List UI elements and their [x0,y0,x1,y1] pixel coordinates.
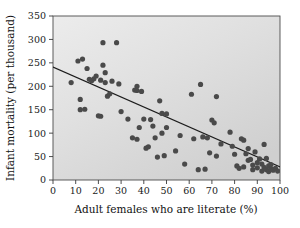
y-tick-label: 100 [28,128,46,139]
scatter-point [262,142,267,147]
x-axis-ticks [53,180,280,184]
y-axis-tick-labels: 050100150200250300350 [28,10,46,185]
scatter-point [141,116,146,121]
scatter-point [227,130,232,135]
scatter-point [125,116,130,121]
scatter-point [103,70,108,75]
y-axis-title: Infant mortality (per thousand) [4,15,16,181]
scatter-point [98,78,103,83]
scatter-point [155,154,160,159]
scatter-point [134,88,139,93]
scatter-point [214,154,219,159]
scatter-point [257,156,262,161]
scatter-point [119,109,124,114]
chart-canvas: 050100150200250300350 010203040506070809… [0,0,300,228]
scatter-point [134,137,139,142]
scatter-point [162,153,167,158]
y-tick-label: 50 [34,151,46,162]
scatter-point [232,152,237,157]
scatter-point [246,146,251,151]
scatter-point [189,92,194,97]
y-tick-label: 350 [28,10,46,21]
scatter-point [255,165,260,170]
scatter-point [218,141,223,146]
scatter-point [264,156,269,161]
scatter-point [250,167,255,172]
scatter-point [80,57,85,62]
x-tick-label: 0 [50,185,56,196]
scatter-point [241,138,246,143]
scatter-point [173,148,178,153]
scatter-point [159,111,164,116]
scatter-point [107,91,112,96]
scatter-point [196,167,201,172]
scatter-point [150,124,155,129]
y-tick-label: 0 [40,174,46,185]
scatter-point [82,107,87,112]
scatter-point [114,40,119,45]
y-tick-label: 250 [28,57,46,68]
scatter-point [207,150,212,155]
scatter-point [241,164,246,169]
y-axis-ticks [49,16,53,180]
scatter-point [146,144,151,149]
scatter-point [157,98,162,103]
scatter-point [78,97,83,102]
infant-mortality-literacy-scatter-figure: 050100150200250300350 010203040506070809… [0,0,300,228]
scatter-point [116,81,121,86]
scatter-point [84,66,89,71]
scatter-point [248,157,253,162]
scatter-point [98,114,103,119]
scatter-point [109,79,114,84]
scatter-point [250,162,255,167]
x-tick-label: 80 [229,185,241,196]
x-axis-tick-labels: 0102030405060708090100 [50,185,289,196]
scatter-point [137,125,142,130]
x-tick-label: 30 [115,185,127,196]
y-tick-label: 300 [28,34,46,45]
scatter-point [212,120,217,125]
scatter-point [75,58,80,63]
scatter-point [230,144,235,149]
scatter-point [275,168,280,173]
scatter-point [252,149,257,154]
scatter-point [202,167,207,172]
x-tick-label: 10 [70,185,82,196]
scatter-point [78,107,83,112]
scatter-point [191,136,196,141]
x-tick-label: 90 [251,185,263,196]
x-tick-label: 70 [206,185,218,196]
scatter-point [159,131,164,136]
scatter-point [139,89,144,94]
y-tick-label: 200 [28,81,46,92]
x-tick-label: 60 [183,185,195,196]
x-tick-label: 20 [92,185,104,196]
scatter-point [182,161,187,166]
scatter-point [130,135,135,140]
scatter-point [100,40,105,45]
scatter-point [268,162,273,167]
x-tick-label: 50 [160,185,172,196]
y-tick-label: 150 [28,104,46,115]
x-tick-label: 40 [138,185,150,196]
x-tick-label: 100 [271,185,289,196]
scatter-point [243,151,248,156]
scatter-point [153,135,158,140]
scatter-point [148,117,153,122]
scatter-point [164,111,169,116]
scatter-point [94,73,99,78]
scatter-point [205,135,210,140]
x-axis-title: Adult females who are literate (%) [73,203,257,215]
scatter-point [103,80,108,85]
scatter-point [164,125,169,130]
scatter-point [100,63,105,68]
scatter-point [198,82,203,87]
scatter-point [178,133,183,138]
scatter-point [214,94,219,99]
scatter-point [69,80,74,85]
scatter-point [200,134,205,139]
scatter-point [237,166,242,171]
